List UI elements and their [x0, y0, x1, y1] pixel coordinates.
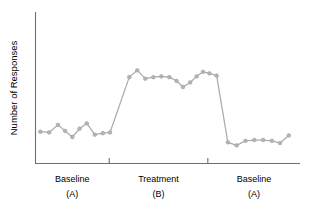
- phase-sublabel-A2: (A): [248, 189, 260, 199]
- phase-divider-ticks: [109, 158, 208, 164]
- phase-label-A1: Baseline: [55, 174, 90, 184]
- data-point: [167, 75, 171, 79]
- response-series-markers: [38, 68, 290, 147]
- aba-design-chart: Number of Responses Baseline(A)Treatment…: [0, 0, 310, 210]
- phase-sublabel-B: (B): [153, 189, 165, 199]
- data-point: [175, 79, 179, 83]
- data-point: [226, 140, 230, 144]
- y-axis-title: Number of Responses: [8, 40, 19, 135]
- data-point: [195, 74, 199, 78]
- data-point: [235, 143, 239, 147]
- phase-label-A2: Baseline: [237, 174, 272, 184]
- data-point: [135, 68, 139, 72]
- data-point: [70, 135, 74, 139]
- response-series-line: [40, 70, 288, 145]
- data-point: [38, 130, 42, 134]
- data-point: [78, 127, 82, 131]
- data-point: [101, 131, 105, 135]
- data-point: [63, 129, 67, 133]
- data-point: [93, 133, 97, 137]
- data-point: [188, 81, 192, 85]
- data-point: [201, 70, 205, 74]
- data-point: [270, 139, 274, 143]
- data-point: [85, 121, 89, 125]
- data-point: [143, 77, 147, 81]
- data-point: [181, 85, 185, 89]
- data-point: [278, 141, 282, 145]
- phase-labels-group: Baseline(A)Treatment(B)Baseline(A): [55, 174, 271, 199]
- data-point: [127, 75, 131, 79]
- data-point: [244, 139, 248, 143]
- phase-label-B: Treatment: [138, 174, 179, 184]
- data-point: [261, 138, 265, 142]
- data-point: [215, 74, 219, 78]
- data-point: [108, 131, 112, 135]
- data-point: [56, 123, 60, 127]
- phase-sublabel-A1: (A): [66, 189, 78, 199]
- data-point: [208, 71, 212, 75]
- data-point: [287, 134, 291, 138]
- data-point: [151, 75, 155, 79]
- chart-plot-area: Number of Responses Baseline(A)Treatment…: [0, 0, 310, 210]
- data-point: [159, 74, 163, 78]
- data-point: [47, 131, 51, 135]
- data-point: [252, 138, 256, 142]
